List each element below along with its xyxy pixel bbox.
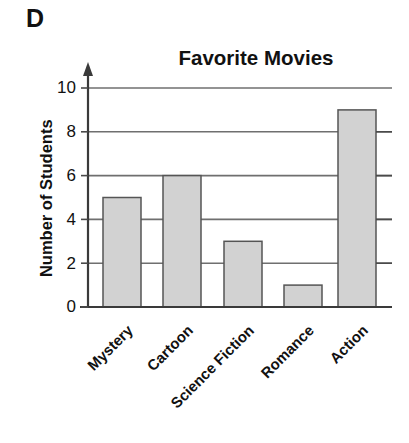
y-axis-arrowhead xyxy=(83,62,93,76)
bar-cartoon xyxy=(163,176,201,307)
y-tick-label-8: 8 xyxy=(42,123,76,140)
bar-mystery xyxy=(103,198,141,308)
y-tick-label-6: 6 xyxy=(42,167,76,184)
bar-romance xyxy=(284,285,322,307)
bars-group xyxy=(103,110,376,307)
y-tick-label-0: 0 xyxy=(42,298,76,315)
bar-science-fiction xyxy=(224,241,262,307)
y-tick-label-10: 10 xyxy=(42,79,76,96)
y-tick-label-2: 2 xyxy=(42,255,76,272)
figure-panel: D Favorite Movies Number of Students xyxy=(0,0,409,443)
right-tick-marks xyxy=(376,132,392,263)
bar-action xyxy=(338,110,376,307)
y-tick-label-4: 4 xyxy=(42,211,76,228)
